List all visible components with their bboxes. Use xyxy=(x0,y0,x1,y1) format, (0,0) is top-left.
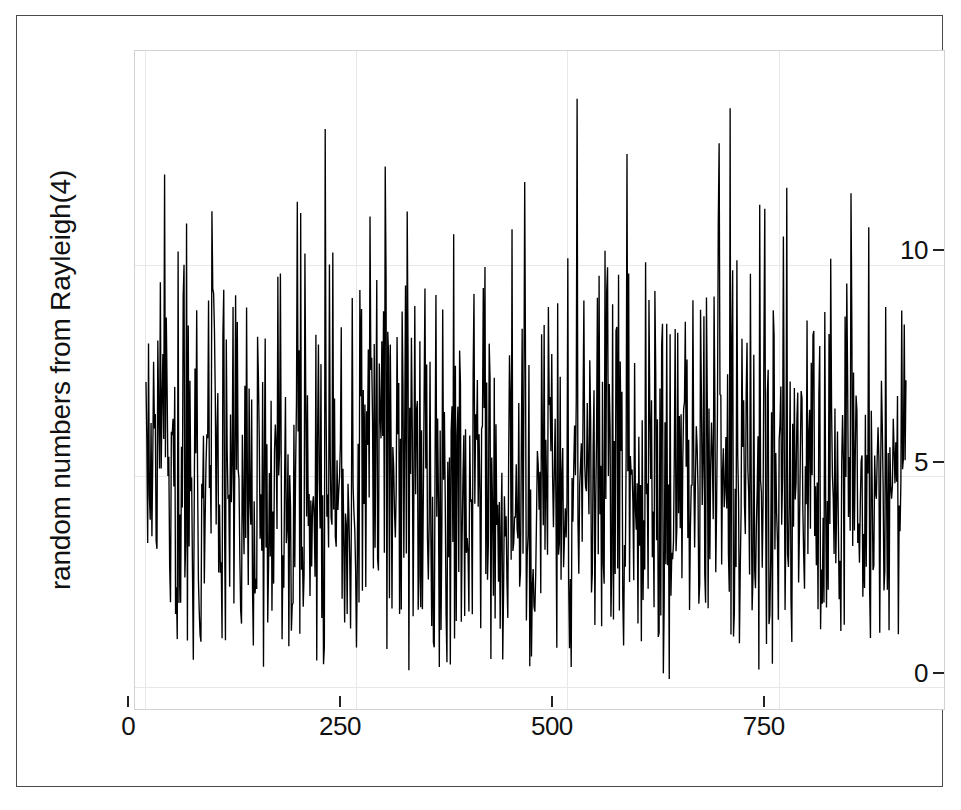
x-axis-tick-label: 0 xyxy=(68,711,188,742)
data-series-line xyxy=(146,99,906,679)
y-axis-title-text: random numbers from Rayleigh(4) xyxy=(45,170,77,590)
y-axis-tick-mark xyxy=(933,249,944,251)
x-axis-tick-mark xyxy=(763,696,765,707)
series-layer xyxy=(146,99,906,679)
figure-outer-frame: random numbers from Rayleigh(4) 0510 025… xyxy=(16,15,943,787)
y-axis-tick-10[interactable]: 10 xyxy=(843,239,944,261)
x-axis-tick-mark xyxy=(339,696,341,707)
x-axis-tick-750[interactable]: 750 xyxy=(704,696,824,742)
y-axis-tick-0[interactable]: 0 xyxy=(843,662,944,684)
y-axis-title: random numbers from Rayleigh(4) xyxy=(39,50,83,710)
y-axis-tick-label: 0 xyxy=(914,662,933,684)
y-axis-tick-5[interactable]: 5 xyxy=(843,451,944,473)
y-axis-tick-mark xyxy=(933,672,944,674)
y-axis-tick-mark xyxy=(933,461,944,463)
x-axis-tick-mark xyxy=(127,696,129,707)
plot-canvas xyxy=(135,51,944,709)
plot-panel xyxy=(134,50,945,710)
x-axis-tick-mark xyxy=(551,696,553,707)
x-axis-tick-500[interactable]: 500 xyxy=(492,696,612,742)
x-axis-tick-0[interactable]: 0 xyxy=(68,696,188,742)
x-axis-tick-label: 500 xyxy=(492,711,612,742)
x-axis-tick-label: 250 xyxy=(280,711,400,742)
x-axis-tick-label: 750 xyxy=(704,711,824,742)
y-axis-tick-label: 10 xyxy=(900,239,933,261)
x-axis-tick-250[interactable]: 250 xyxy=(280,696,400,742)
y-axis-tick-label: 5 xyxy=(914,451,933,473)
grid-layer xyxy=(135,51,944,709)
figure-root: random numbers from Rayleigh(4) 0510 025… xyxy=(0,0,961,810)
